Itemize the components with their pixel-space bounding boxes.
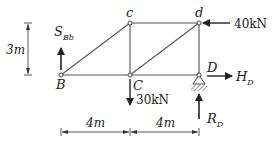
joint-d [197, 21, 201, 25]
reaction-label-H-D: HD [235, 69, 254, 87]
node-label-D: D [206, 60, 218, 75]
load-label-30kN: 30kN [136, 93, 169, 107]
load-label-40kN: 40kN [234, 17, 267, 31]
dimension-label-span-left: 4m [85, 116, 105, 130]
node-label-d: d [195, 5, 203, 20]
reaction-label-S-Bb: SBb [54, 24, 74, 42]
truss-diagram: B C D c d 40kN 30kN SBb HD RD 3m 4m 4 [0, 0, 274, 148]
dimension-label-span-right: 4m [155, 116, 175, 130]
node-label-c: c [126, 5, 134, 20]
node-label-C: C [133, 78, 143, 93]
reaction-label-R-D: RD [206, 111, 224, 129]
member-C-d [130, 23, 199, 75]
joint-c [128, 21, 132, 25]
member-B-c [61, 23, 130, 75]
truss-members [61, 23, 199, 75]
node-label-B: B [55, 77, 66, 92]
dimension-height [24, 23, 32, 75]
joint-C [128, 73, 132, 77]
joint-D [197, 73, 201, 77]
dimension-spans [61, 128, 199, 136]
dimension-label-height: 3m [6, 43, 25, 57]
